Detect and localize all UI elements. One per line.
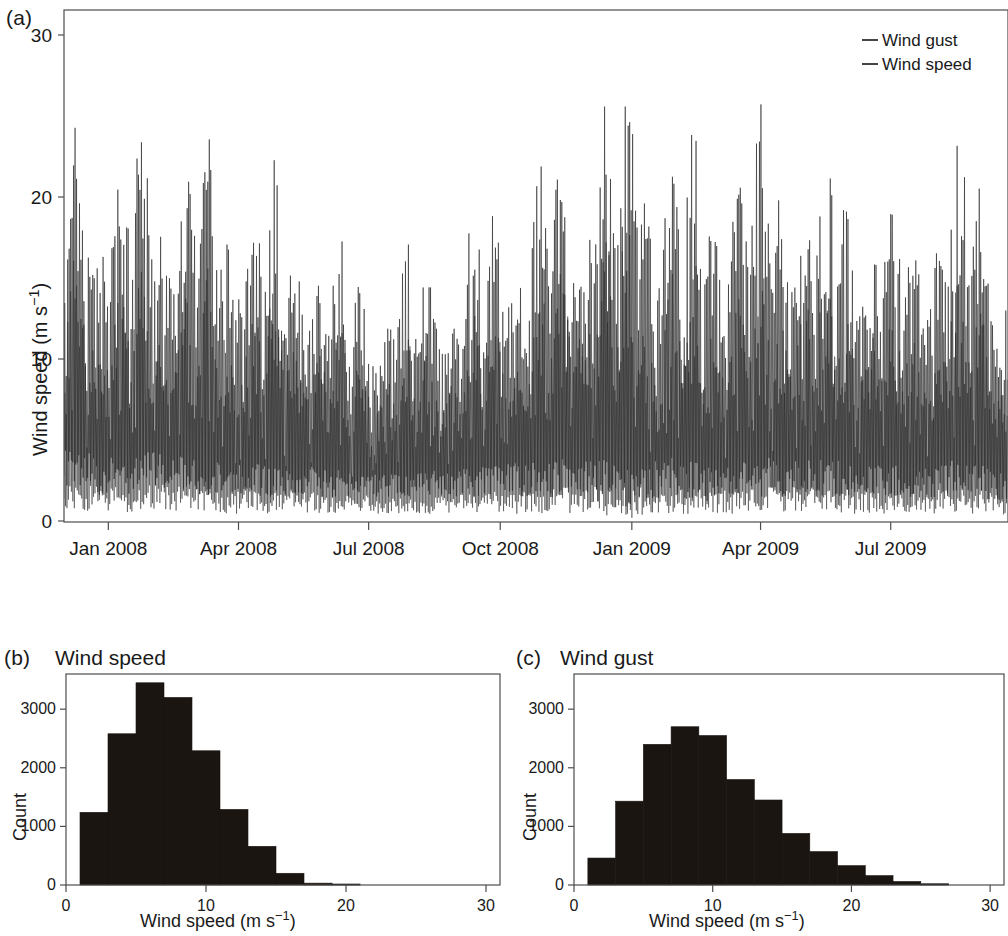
panel-b-ytick-2: 2000 xyxy=(20,759,56,776)
histogram-bar xyxy=(810,852,838,885)
panel-a-xtick-1: Apr 2008 xyxy=(200,538,277,559)
panel-b-plot: 0100020003000 0102030 xyxy=(0,636,504,936)
histogram-bar xyxy=(164,697,192,885)
panel-a-ytick-20: 20 xyxy=(31,187,52,208)
panel-c-y-axis: 0100020003000 xyxy=(528,700,574,893)
histogram-bar xyxy=(192,751,220,885)
panel-c-plot: 0100020003000 0102030 xyxy=(504,636,1008,936)
panel-a-y-axis: 30 20 10 0 xyxy=(31,25,64,532)
panel-a-xtick-3: Oct 2008 xyxy=(462,538,539,559)
panel-a-x-axis: Jan 2008Apr 2008Jul 2008Oct 2008Jan 2009… xyxy=(69,522,926,559)
panel-a-legend: Wind gust Wind speed xyxy=(862,31,972,74)
panel-a-ytick-10: 10 xyxy=(31,349,52,370)
panel-c-ytick-1: 1000 xyxy=(528,817,564,834)
histogram-bar xyxy=(276,873,304,885)
histogram-bar xyxy=(838,866,866,885)
histogram-bar xyxy=(727,780,755,886)
panel-a-timeseries: (a) Wind speed (m s−1) 30 20 10 0 xyxy=(0,0,1008,600)
panel-c-ytick-0: 0 xyxy=(555,876,564,893)
panel-a-xtick-2: Jul 2008 xyxy=(333,538,405,559)
histogram-bar xyxy=(782,833,810,885)
panel-b-ytick-0: 0 xyxy=(47,876,56,893)
panel-a-xtick-5: Apr 2009 xyxy=(722,538,799,559)
panel-b-bars xyxy=(80,683,360,885)
histogram-bar xyxy=(616,801,644,885)
panel-a-plot: 30 20 10 0 Jan 2008Apr 2008Jul 2008Oct 2… xyxy=(0,0,1008,600)
panel-a-xtick-6: Jul 2009 xyxy=(855,538,927,559)
panel-c-xtick-1: 10 xyxy=(704,897,722,914)
panel-c-x-axis: 0102030 xyxy=(570,885,1000,914)
panel-b-ytick-1: 1000 xyxy=(20,817,56,834)
legend-label-wind-speed: Wind speed xyxy=(882,55,972,74)
wind-figure: (a) Wind speed (m s−1) 30 20 10 0 xyxy=(0,0,1008,936)
panel-a-xtick-0: Jan 2008 xyxy=(69,538,147,559)
histogram-bar xyxy=(80,812,108,885)
panel-b-y-axis: 0100020003000 xyxy=(20,700,66,893)
panel-b-xtick-2: 20 xyxy=(337,897,355,914)
panel-a-ytick-30: 30 xyxy=(31,25,52,46)
panel-b-xtick-0: 0 xyxy=(62,897,71,914)
histogram-bar xyxy=(865,876,893,885)
panel-b-wind-speed-histogram: (b) Wind speed Count Wind speed (m s−1) … xyxy=(0,636,504,936)
panel-a-series-group xyxy=(64,104,1007,517)
panel-a-ytick-0: 0 xyxy=(41,511,52,532)
panel-a-xtick-4: Jan 2009 xyxy=(593,538,671,559)
panel-c-xtick-2: 20 xyxy=(843,897,861,914)
histogram-bar xyxy=(588,858,616,885)
panel-b-xtick-1: 10 xyxy=(197,897,215,914)
panel-c-ytick-2: 2000 xyxy=(528,759,564,776)
panel-c-xtick-0: 0 xyxy=(570,897,579,914)
histogram-bar xyxy=(220,809,248,885)
histogram-bar xyxy=(136,683,164,885)
histogram-bar xyxy=(643,744,671,885)
panel-c-ytick-3: 3000 xyxy=(528,700,564,717)
panel-b-ytick-3: 3000 xyxy=(20,700,56,717)
panel-b-x-axis: 0102030 xyxy=(62,885,495,914)
histogram-bar xyxy=(671,727,699,885)
panel-c-wind-gust-histogram: (c) Wind gust Count Wind speed (m s−1) 0… xyxy=(504,636,1008,936)
panel-c-xtick-3: 30 xyxy=(981,897,999,914)
histogram-bar xyxy=(108,734,136,885)
histogram-bar xyxy=(754,800,782,885)
legend-label-wind-gust: Wind gust xyxy=(882,31,958,50)
histogram-bar xyxy=(699,736,727,885)
histogram-bar xyxy=(248,846,276,885)
panel-c-bars xyxy=(588,727,949,885)
panel-b-xtick-3: 30 xyxy=(477,897,495,914)
